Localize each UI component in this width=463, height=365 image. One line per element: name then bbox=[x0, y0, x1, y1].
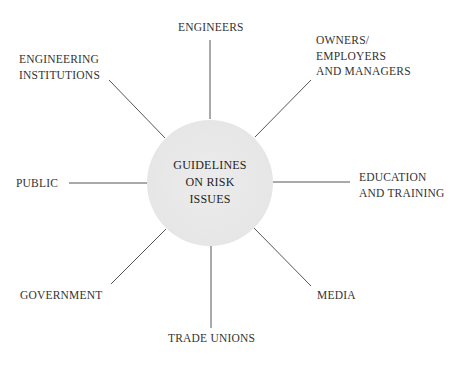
node-education: EDUCATION AND TRAINING bbox=[359, 170, 445, 201]
spoke-institutions bbox=[109, 80, 165, 138]
spoke-media bbox=[254, 228, 311, 286]
node-engineers: ENGINEERS bbox=[178, 20, 244, 36]
node-media: MEDIA bbox=[317, 288, 356, 304]
spoke-government bbox=[111, 229, 166, 284]
node-public: PUBLIC bbox=[16, 176, 58, 192]
hub-label-line-2: ON RISK bbox=[150, 174, 270, 191]
node-institutions: ENGINEERING INSTITUTIONS bbox=[19, 52, 100, 83]
hub-label-line-1: GUIDELINES bbox=[150, 157, 270, 174]
node-government: GOVERNMENT bbox=[20, 288, 103, 304]
node-trade-unions: TRADE UNIONS bbox=[168, 331, 255, 347]
hub-label: GUIDELINES ON RISK ISSUES bbox=[150, 157, 270, 208]
hub-label-line-3: ISSUES bbox=[150, 191, 270, 208]
node-owners: OWNERS/ EMPLOYERS AND MANAGERS bbox=[316, 33, 411, 80]
spoke-owners bbox=[255, 80, 311, 137]
